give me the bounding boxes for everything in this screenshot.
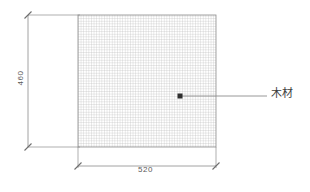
part-material-label: 木材 [271,88,293,99]
technical-drawing-canvas: 460 520 木材 [0,0,310,192]
dimension-vertical [25,12,81,151]
drawing-vector-layer [0,0,310,192]
dimension-label-horizontal: 520 [138,166,153,174]
dimension-label-vertical: 460 [17,71,25,86]
leader-origin-dot [178,94,183,99]
part-rectangle [78,15,216,147]
part-rectangle-outline [78,15,216,147]
